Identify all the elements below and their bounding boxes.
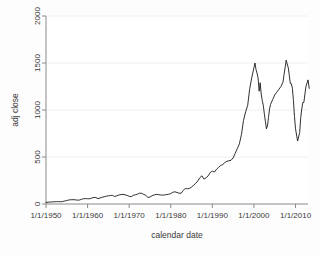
chart-figure: 0500100015002000 1/1/19501/1/19601/1/197… [0,0,320,257]
x-tick-label: 1/1/1980 [155,211,187,220]
x-tick-label: 1/1/2010 [280,211,312,220]
y-tick-label: 1500 [33,54,42,72]
y-tick-label: 1000 [33,101,42,119]
x-tick-label: 1/1/1950 [30,211,62,220]
x-axis-tick-labels: 1/1/19501/1/19601/1/19701/1/19801/1/1990… [30,211,311,220]
y-tick-label: 500 [33,150,42,164]
x-tick-label: 1/1/2000 [238,211,270,220]
line-chart: 0500100015002000 1/1/19501/1/19601/1/197… [0,0,320,257]
y-tick-label: 0 [33,201,42,206]
y-tick-label: 2000 [33,7,42,25]
y-axis-title: adj close [10,93,20,127]
x-tick-label: 1/1/1970 [114,211,146,220]
x-tick-label: 1/1/1960 [72,211,104,220]
x-axis-title: calendar date [151,230,203,240]
x-tick-label: 1/1/1990 [197,211,229,220]
